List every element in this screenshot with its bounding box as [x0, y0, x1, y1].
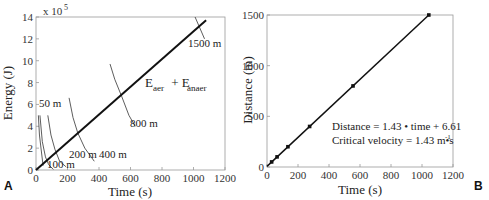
y-tick-label-a: 0	[28, 164, 34, 176]
main-line-label-sub-anaer: anaer	[187, 83, 206, 93]
x-axis-label-b: Time (s)	[338, 182, 382, 197]
x-tick-label-b: 0	[264, 169, 270, 181]
x-tick-label-a: 1000	[183, 172, 206, 184]
y-tick-label-a: 4	[28, 120, 34, 132]
chart-panel-a: 020040060080010001200 02468101214 50 m10…	[0, 3, 237, 199]
y-tick-label-a: 8	[28, 77, 34, 89]
critical-velocity: Critical velocity = 1.43 m•s	[332, 134, 454, 146]
y-tick-label-a: 2	[28, 142, 34, 154]
x-tick-label-b: 1200	[442, 169, 465, 181]
curve-label: 1500 m	[188, 37, 222, 49]
y-tick-label-a: 6	[28, 98, 34, 110]
curve-label: 50 m	[39, 97, 62, 109]
main-line-label-sub-aer: aer	[153, 83, 164, 93]
x-tick-label-a: 0	[33, 172, 39, 184]
x-tick-label-a: 400	[91, 172, 108, 184]
critical-velocity-exponent: -1	[445, 133, 451, 141]
panel-label-a: A	[4, 179, 13, 193]
x-axis-label-a: Time (s)	[108, 184, 152, 199]
main-line-label: E aer + E anaer	[145, 75, 206, 93]
y-axis-label-a: Energy (J)	[0, 66, 15, 120]
y-multiplier-exponent: 5	[64, 3, 68, 12]
curve-label: 800 m	[130, 117, 158, 129]
panel-label-b: B	[474, 179, 483, 193]
main-line-label-e: E	[145, 75, 153, 90]
x-tick-label-b: 200	[290, 169, 307, 181]
y-tick-label-b: 0	[259, 161, 265, 173]
figure: 020040060080010001200 02468101214 50 m10…	[0, 0, 489, 200]
data-point	[308, 125, 312, 129]
x-tick-label-b: 400	[321, 169, 338, 181]
y-multiplier: x 10	[43, 5, 63, 17]
curve-label: 200 m	[69, 148, 97, 160]
x-tick-label-a: 200	[59, 172, 76, 184]
chart-panel-b: 020040060080010001200 050010001500 Dista…	[240, 9, 483, 197]
x-tick-label-b: 1000	[411, 169, 434, 181]
y-axis-label-b: Distance (m)	[240, 56, 255, 124]
y-tick-label-b: 1500	[242, 9, 265, 21]
x-tick-label-b: 600	[352, 169, 369, 181]
data-point	[351, 84, 355, 88]
x-tick-label-b: 800	[383, 169, 400, 181]
y-tick-label-a: 10	[22, 55, 34, 67]
y-tick-label-a: 12	[22, 33, 33, 45]
data-point	[270, 160, 274, 164]
data-point	[286, 145, 290, 149]
x-tick-label-a: 800	[154, 172, 171, 184]
x-tick-label-a: 600	[122, 172, 139, 184]
data-point	[275, 155, 279, 159]
y-tick-label-a: 14	[22, 11, 34, 23]
data-point	[427, 13, 431, 17]
fit-equation: Distance = 1.43 • time + 6.61	[332, 120, 461, 132]
x-tick-label-a: 1200	[214, 172, 237, 184]
curve-label: 400 m	[99, 148, 127, 160]
